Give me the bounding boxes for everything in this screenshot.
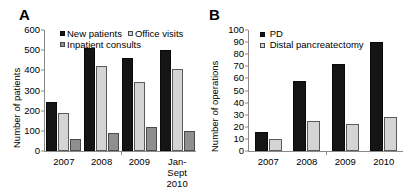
bar: [332, 64, 345, 151]
x-tick-label: 2009: [121, 152, 159, 189]
panel-a-x-ticks: 200720082009Jan-Sept 2010: [45, 152, 196, 189]
x-tick-label: 2008: [288, 152, 327, 167]
bar: [255, 132, 268, 151]
y-tick-mark: [41, 30, 44, 31]
panel-b-x-ticks: 2007200820092010: [249, 152, 403, 167]
bar: [96, 66, 107, 151]
x-tick-label: 2007: [45, 152, 83, 189]
bar-group: [83, 30, 121, 151]
y-tick-mark: [245, 30, 248, 31]
panel-b: B Number of operations PD Distal pancrea…: [204, 0, 409, 191]
bar: [346, 124, 359, 151]
y-tick-mark: [245, 151, 248, 152]
bar: [184, 131, 195, 151]
y-tick-mark: [41, 110, 44, 111]
x-tick-mark: [326, 152, 327, 155]
y-tick-mark: [245, 102, 248, 103]
bar: [160, 50, 171, 151]
bar: [269, 139, 282, 151]
y-tick-mark: [41, 50, 44, 51]
panel-a-letter: A: [19, 7, 30, 22]
bar-group: [365, 30, 404, 151]
x-tick-label: Jan-Sept 2010: [158, 152, 196, 189]
panel-a-bar-groups: [45, 30, 196, 151]
bar-group: [45, 30, 83, 151]
bar: [108, 133, 119, 151]
y-tick-mark: [41, 130, 44, 131]
bar: [172, 69, 183, 151]
bar-group: [249, 30, 288, 151]
bar: [84, 48, 95, 151]
panel-b-y-axis-label: Number of operations: [210, 61, 220, 152]
y-tick-mark: [245, 42, 248, 43]
bar-group: [288, 30, 327, 151]
bar: [134, 82, 145, 151]
y-tick-mark: [41, 90, 44, 91]
x-tick-mark: [121, 152, 122, 155]
y-tick-mark: [245, 90, 248, 91]
y-tick-mark: [245, 138, 248, 139]
bar-group: [326, 30, 365, 151]
panel-a-y-axis-label: Number of patients: [12, 68, 22, 148]
y-tick-mark: [245, 78, 248, 79]
y-tick-mark: [41, 70, 44, 71]
panel-a-plot-area: 0100200300400500600 200720082009Jan-Sept…: [44, 30, 196, 152]
panel-b-plot-area: 0102030405060708090100 2007200820092010: [248, 30, 403, 152]
y-tick-mark: [41, 151, 44, 152]
x-tick-label: 2008: [83, 152, 121, 189]
y-tick-mark: [245, 54, 248, 55]
figure-two-panel-bar-charts: A Number of patients New patients Office…: [0, 0, 409, 191]
x-tick-label: 2009: [326, 152, 365, 167]
y-tick-mark: [245, 126, 248, 127]
bar: [293, 81, 306, 151]
x-tick-label: 2007: [249, 152, 288, 167]
bar: [58, 113, 69, 151]
panel-b-bar-groups: [249, 30, 403, 151]
bar-group: [121, 30, 159, 151]
bar: [122, 58, 133, 151]
x-tick-label: 2010: [365, 152, 404, 167]
bar: [70, 139, 81, 151]
bar: [307, 121, 320, 151]
bar: [146, 127, 157, 151]
bar: [46, 102, 57, 151]
y-tick-mark: [245, 114, 248, 115]
bar: [384, 117, 397, 151]
y-tick-mark: [245, 66, 248, 67]
bar: [370, 42, 383, 151]
bar-group: [158, 30, 196, 151]
panel-b-letter: B: [209, 7, 220, 22]
panel-a: A Number of patients New patients Office…: [0, 0, 204, 191]
